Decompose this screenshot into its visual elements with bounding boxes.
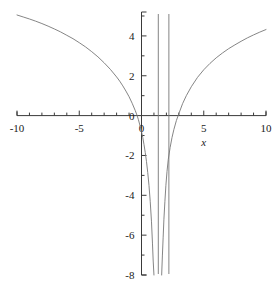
- y-axis-tick-labels: 420-2-4-6-8: [125, 30, 135, 281]
- plot-canvas: -10-50510 420-2-4-6-8 x: [0, 0, 278, 286]
- y-tick-label: -2: [125, 149, 134, 161]
- x-axis-title: x: [200, 136, 206, 148]
- y-tick-label: 4: [129, 30, 135, 42]
- y-tick-label: 2: [129, 70, 135, 82]
- y-tick-label: -6: [125, 229, 135, 241]
- y-tick-label: 0: [129, 110, 135, 122]
- y-tick-label: -8: [125, 269, 135, 281]
- curve-branch-right: [162, 30, 266, 275]
- x-tick-label: 10: [261, 122, 273, 134]
- x-tick-label: -10: [10, 122, 25, 134]
- x-tick-label: -5: [75, 122, 85, 134]
- x-tick-label: 5: [201, 122, 207, 134]
- function-plot-figure: -10-50510 420-2-4-6-8 x: [0, 0, 278, 286]
- y-tick-label: -4: [125, 189, 135, 201]
